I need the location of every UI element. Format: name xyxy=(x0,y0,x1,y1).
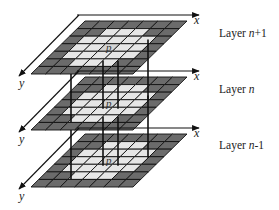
svg-text:p: p xyxy=(105,154,112,166)
svg-text:y: y xyxy=(18,76,25,90)
svg-text:x: x xyxy=(193,126,200,140)
svg-text:y: y xyxy=(18,189,25,203)
svg-text:p: p xyxy=(105,41,112,53)
grid-layer-2: xyp xyxy=(18,126,200,203)
svg-text:x: x xyxy=(193,13,200,27)
layer-stack-diagram: xypxypxyp Layer n+1 Layer n Layer n-1 xyxy=(0,0,279,210)
layer-label-bottom: Layer n-1 xyxy=(219,139,264,151)
svg-text:y: y xyxy=(18,132,25,146)
svg-text:p: p xyxy=(105,97,112,109)
svg-text:x: x xyxy=(193,69,200,83)
layer-label-top: Layer n+1 xyxy=(219,27,267,39)
layer-label-middle: Layer n xyxy=(219,83,254,95)
